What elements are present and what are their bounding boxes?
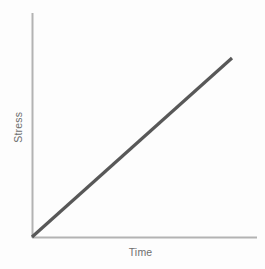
plot-area xyxy=(0,0,265,269)
data-line-stress xyxy=(32,58,232,237)
x-axis-title: Time xyxy=(8,247,265,258)
stress-vs-time-chart: Stress Time xyxy=(0,0,265,269)
y-axis-title: Stress xyxy=(13,97,24,157)
